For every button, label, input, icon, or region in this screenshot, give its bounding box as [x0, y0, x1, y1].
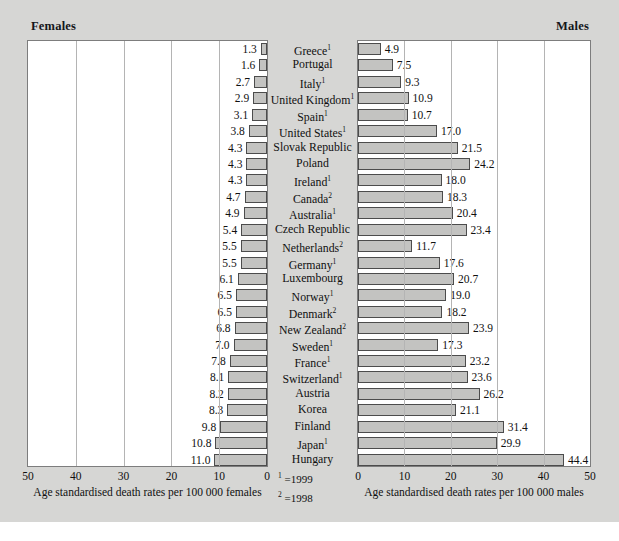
footnote-marker: 2 [339, 240, 343, 249]
table-row: 21.5 [358, 140, 590, 156]
footnote-entry: 1 =1999 [272, 468, 354, 487]
male-bar [358, 59, 393, 71]
female-value-label: 9.8 [202, 419, 216, 435]
footnote-marker: 2 [328, 191, 332, 200]
country-label: United Kingdom1 [268, 89, 357, 105]
male-bar [358, 454, 564, 466]
table-row: 17.6 [358, 255, 590, 271]
male-bar [358, 158, 470, 170]
female-bar [236, 289, 267, 301]
country-label: Luxembourg [268, 270, 357, 286]
table-row: 7.8 [28, 353, 267, 369]
male-value-label: 23.9 [473, 320, 493, 336]
male-bar [358, 125, 437, 137]
male-bar [358, 273, 454, 285]
country-label: Ireland1 [268, 171, 357, 187]
male-value-label: 44.4 [568, 452, 588, 468]
table-row: 19.0 [358, 287, 590, 303]
female-bar [241, 257, 267, 269]
female-bar [246, 158, 267, 170]
table-row: 1.3 [28, 41, 267, 57]
table-row: 5.5 [28, 255, 267, 271]
female-bar [253, 92, 267, 104]
male-value-label: 23.6 [472, 369, 492, 385]
table-row: 31.4 [358, 419, 590, 435]
gridline [76, 41, 77, 466]
table-row: 11.7 [358, 238, 590, 254]
female-value-label: 5.5 [222, 238, 236, 254]
female-value-label: 4.3 [228, 156, 242, 172]
females-header: Females [31, 19, 76, 34]
table-row: 20.4 [358, 205, 590, 221]
males-plot-panel: 4.97.59.310.910.717.021.524.218.018.320.… [357, 40, 591, 467]
male-value-label: 10.9 [413, 90, 433, 106]
female-value-label: 4.7 [226, 189, 240, 205]
table-row: 6.5 [28, 287, 267, 303]
female-value-label: 2.7 [236, 74, 250, 90]
country-label: Finland [268, 418, 357, 434]
male-value-label: 17.3 [442, 337, 462, 353]
male-bar [358, 322, 469, 334]
male-bar [358, 388, 480, 400]
table-row: 10.8 [28, 435, 267, 451]
male-bar [358, 404, 456, 416]
female-value-label: 8.3 [209, 402, 223, 418]
female-value-label: 11.0 [191, 452, 211, 468]
table-row: 21.1 [358, 402, 590, 418]
female-bar [235, 322, 268, 334]
country-label: Slovak Republic [268, 139, 357, 155]
female-bar [241, 224, 267, 236]
country-label: France1 [268, 352, 357, 368]
female-value-label: 8.2 [209, 386, 223, 402]
table-row: 4.3 [28, 140, 267, 156]
male-value-label: 19.0 [450, 287, 470, 303]
female-bar [246, 174, 267, 186]
male-bar [358, 142, 458, 154]
footnote-marker: 1 [329, 339, 333, 348]
table-row: 24.2 [358, 156, 590, 172]
axis-tick-label: 30 [118, 469, 130, 484]
female-value-label: 10.8 [191, 435, 211, 451]
axis-tick-label: 20 [166, 469, 178, 484]
female-bar [236, 306, 267, 318]
female-bar [241, 240, 267, 252]
country-label: Austria [268, 385, 357, 401]
male-value-label: 31.4 [508, 419, 528, 435]
table-row: 8.2 [28, 386, 267, 402]
country-label: Portugal [268, 56, 357, 72]
female-value-label: 1.6 [241, 57, 255, 73]
males-axis-ticks: 01020304050 [357, 469, 591, 484]
gridline [404, 41, 405, 466]
female-value-label: 4.3 [228, 140, 242, 156]
female-bar [254, 76, 267, 88]
male-value-label: 9.3 [405, 74, 419, 90]
gridline [171, 41, 172, 466]
male-value-label: 18.2 [446, 304, 466, 320]
table-row: 11.0 [28, 452, 267, 468]
table-row: 7.5 [358, 57, 590, 73]
country-label: Korea [268, 401, 357, 417]
table-row: 8.3 [28, 402, 267, 418]
table-row: 18.2 [358, 304, 590, 320]
footnote-marker: 1 [327, 174, 331, 183]
female-bar [238, 273, 267, 285]
male-value-label: 20.4 [457, 205, 477, 221]
females-bar-rows: 1.31.62.72.93.13.84.34.34.34.74.95.45.55… [28, 41, 267, 466]
axis-tick-label: 50 [584, 469, 596, 484]
country-label: Japan1 [268, 434, 357, 450]
female-value-label: 2.9 [235, 90, 249, 106]
male-value-label: 10.7 [412, 107, 432, 123]
male-value-label: 24.2 [474, 156, 494, 172]
country-label: Denmark2 [268, 303, 357, 319]
female-bar [214, 454, 267, 466]
females-axis-title: Age standardised death rates per 100 000… [27, 486, 268, 498]
footnote-marker: 1 [350, 92, 354, 101]
table-row: 6.1 [28, 271, 267, 287]
table-row: 18.0 [358, 172, 590, 188]
male-bar [358, 43, 381, 55]
country-label: Poland [268, 155, 357, 171]
table-row: 26.2 [358, 386, 590, 402]
country-label: Greece1 [268, 40, 357, 56]
table-row: 9.3 [358, 74, 590, 90]
female-bar [252, 109, 267, 121]
